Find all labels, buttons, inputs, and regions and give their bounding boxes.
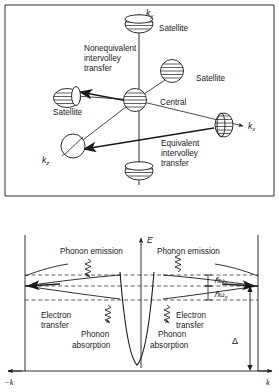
valley-satellite-kz (61, 134, 85, 158)
satellite-band-right-lower-branch (163, 286, 258, 299)
valley-satellite-kx (215, 113, 233, 137)
electron-transfer-right-line2: transfer (176, 321, 204, 330)
ky-axis-label: ky (146, 8, 154, 19)
electron-transfer-left-line2: transfer (41, 321, 69, 330)
equivalent-transfer-line2: intervolley (161, 149, 199, 158)
central-valley-label: Central (160, 98, 187, 107)
phonon-emission-right-label: Phonon emission (157, 247, 220, 256)
electron-transfer-right-line1: Electron (176, 311, 206, 320)
nonequivalent-transfer-line2: intervolley (84, 54, 122, 63)
equivalent-transfer-line3: transfer (161, 159, 189, 168)
kx-axis-label: kx (248, 121, 256, 132)
valley-satellite-left (52, 87, 82, 108)
phonon-absorption-left-line1: Phonon (81, 330, 110, 339)
hbar-omega-indicators (205, 275, 212, 300)
phonon-absorption-right-line2: absorption (150, 341, 189, 350)
nonequivalent-transfer-line1: Nonequivalent (84, 44, 137, 53)
right-satellite-band-upper (215, 264, 258, 276)
satellite-band-left-lower-branch (25, 286, 120, 299)
valley-satellite-bottom (124, 162, 154, 180)
phonon-absorption-squiggle-right (164, 305, 170, 323)
hbar-omega-lower-label: ℏωn (214, 290, 228, 300)
kz-axis-label: kz (42, 155, 49, 166)
k-axis-negative-label: −k (4, 378, 14, 387)
equivalent-transfer-line1: Equivalent (161, 139, 200, 148)
phonon-emission-left-label: Phonon emission (60, 247, 123, 256)
k-axis-positive-label: k (266, 378, 270, 387)
satellite-upper-right-label: Satellite (196, 74, 226, 83)
nonequivalent-transfer-line3: transfer (84, 64, 112, 73)
lower-panel-frame (8, 235, 272, 371)
phonon-squiggles (85, 255, 181, 323)
hbar-omega-upper-label: ℏωn (214, 276, 228, 286)
phonon-absorption-squiggle-left (105, 305, 111, 323)
phonon-absorption-left-line2: absorption (72, 341, 111, 350)
energy-axis-label: E (147, 235, 153, 245)
upper-panel-axes (62, 15, 243, 185)
delta-gap-indicator (247, 286, 252, 371)
valley-central (122, 89, 148, 112)
satellite-band-right-upper-branch (163, 275, 258, 286)
phonon-absorption-right-line1: Phonon (158, 330, 187, 339)
left-satellite-band-upper (25, 264, 68, 276)
phonon-emission-squiggle-left (85, 259, 91, 277)
satellite-left-label: Satellite (53, 108, 83, 117)
satellite-band-left-upper-branch (25, 275, 120, 286)
phonon-emission-squiggle-right (175, 255, 181, 273)
satellite-top-label: Satellite (159, 24, 189, 33)
figure-svg: ky Satellite Nonequivalent intervolley t… (0, 0, 279, 392)
valley-satellite-upper-right (159, 60, 185, 83)
electron-transfer-left-line1: Electron (41, 311, 71, 320)
delta-gap-label: Δ (232, 336, 238, 346)
figure-root: ky Satellite Nonequivalent intervolley t… (0, 0, 279, 392)
